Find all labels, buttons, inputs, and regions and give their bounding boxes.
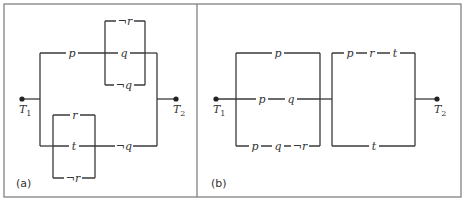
label-not-r: ¬r [293, 140, 308, 153]
figure-frame [4, 4, 461, 197]
panel-b: p p q p q ¬r p r t t T1 T2 (b) [211, 46, 446, 190]
label-p: p [346, 47, 353, 60]
label-q: q [120, 47, 127, 60]
terminal-t2-label: T2 [434, 103, 446, 118]
label-t: t [72, 140, 77, 153]
label-not-q: ¬q [116, 140, 132, 153]
label-t: t [372, 140, 377, 153]
label-not-r: ¬r [66, 172, 81, 185]
terminal-t2-dot [173, 96, 178, 101]
terminal-t1-label: T1 [19, 103, 31, 118]
label-not-q: ¬q [116, 79, 132, 92]
terminal-t1-dot [19, 96, 24, 101]
label-r: r [72, 109, 78, 122]
label-q: q [274, 140, 281, 153]
panel-a-caption: (a) [16, 177, 31, 190]
label-q: q [287, 93, 294, 106]
label-p: p [251, 140, 258, 153]
terminal-t2-label: T2 [173, 103, 185, 118]
panel-b-caption: (b) [211, 177, 227, 190]
label-not-r: ¬r [118, 15, 133, 28]
label-p: p [68, 47, 75, 60]
label-t: t [393, 47, 398, 60]
terminal-t2-dot [434, 96, 439, 101]
label-r: r [369, 47, 375, 60]
label-p: p [274, 47, 281, 60]
switching-circuits-figure: p ¬r q ¬q r t ¬r ¬q T1 T2 (a) [0, 0, 464, 202]
panel-a: p ¬r q ¬q r t ¬r ¬q T1 T2 (a) [16, 14, 185, 190]
terminal-t1-dot [213, 96, 218, 101]
terminal-t1-label: T1 [213, 103, 225, 118]
label-p: p [258, 93, 265, 106]
